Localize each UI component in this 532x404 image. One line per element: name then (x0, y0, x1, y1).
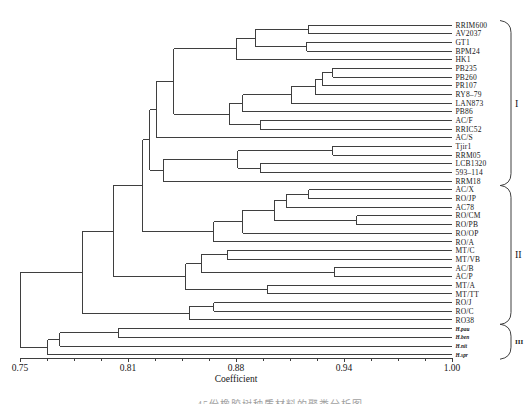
leaf-label: AV2037 (456, 29, 482, 38)
leaf-label: MT/A (456, 281, 476, 290)
leaf-label: RO38 (456, 316, 475, 325)
leaf-label: RO/PB (456, 220, 479, 229)
leaf-label: PB86 (456, 107, 474, 116)
dendrogram-canvas: RRIM600AV2037GT1BPM24HK1PB235PB260PR107R… (0, 0, 532, 404)
group-bracket (500, 185, 511, 324)
leaf-label: AC/P (456, 272, 473, 281)
leaf-label: MT/VB (456, 255, 481, 264)
leaf-label: BPM24 (456, 47, 480, 56)
leaf-label: AC/F (456, 116, 473, 125)
leaf-label: PB235 (456, 64, 477, 73)
group-bracket (500, 21, 511, 186)
leaf-label: RRM05 (456, 151, 481, 160)
leaf-label: HK1 (456, 55, 471, 64)
group-label: I (515, 98, 518, 109)
leaf-label: RRM18 (456, 177, 481, 186)
species-leaf-label: H.pau (455, 326, 470, 332)
leaf-label: RY8–79 (456, 90, 482, 99)
leaf-label: AC/X (456, 185, 475, 194)
leaf-label: AC78 (456, 203, 475, 212)
axis-tick-label: 1.00 (444, 363, 461, 373)
leaf-label: PB260 (456, 73, 477, 82)
leaf-label: PR107 (456, 81, 477, 90)
leaf-label: RO/A (456, 238, 475, 247)
leaf-label: RO/CM (456, 211, 481, 220)
axis-tick-label: 0.75 (12, 363, 29, 373)
leaf-label: AC/S (456, 133, 473, 142)
leaf-label: LAN873 (456, 99, 484, 108)
leaf-label: RRIM600 (456, 21, 488, 30)
figure-caption-partial: 45份橡胶树种质材料的聚类分析图 (130, 399, 430, 404)
leaf-label: AC/B (456, 264, 474, 273)
leaf-label: GT1 (456, 38, 470, 47)
leaf-label: MT/TT (456, 290, 480, 299)
leaf-label: RO/J (456, 298, 472, 307)
leaf-label: LCB1320 (456, 159, 487, 168)
leaf-label: RO/JP (456, 194, 477, 203)
group-bracket (500, 324, 511, 359)
axis-tick-label: 0.88 (228, 363, 245, 373)
leaf-label: RO/C (456, 307, 474, 316)
leaf-label: RRIC52 (456, 125, 482, 134)
leaf-label: Tjir1 (456, 142, 472, 151)
species-leaf-label: H.spr (455, 352, 469, 358)
axis-tick-label: 0.94 (336, 363, 353, 373)
dendrogram-figure: RRIM600AV2037GT1BPM24HK1PB235PB260PR107R… (0, 0, 532, 404)
leaf-label: RO/OP (456, 229, 479, 238)
species-leaf-label: H.ben (455, 334, 470, 340)
leaf-label: MT/C (456, 246, 475, 255)
group-label: II (515, 249, 522, 260)
group-label: III (515, 338, 523, 346)
axis-title: Coefficient (215, 374, 258, 384)
leaf-label: 593–114 (456, 168, 483, 177)
axis-tick-label: 0.81 (120, 363, 137, 373)
species-leaf-label: H.nit (455, 343, 468, 349)
